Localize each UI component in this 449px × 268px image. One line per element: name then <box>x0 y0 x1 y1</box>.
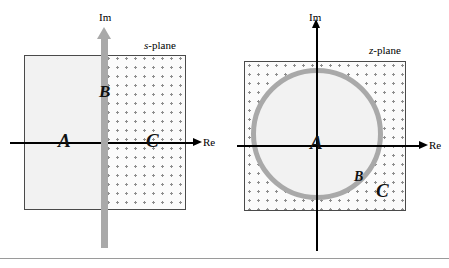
s-plane-panel: Re Im s-plane A B C <box>0 0 225 268</box>
z-plane-panel: Re Im z-plane A B C <box>224 0 449 268</box>
z-plane-im-axis-label: Im <box>309 11 321 23</box>
z-plane-caption: z-plane <box>369 44 401 56</box>
s-plane-unstable-region-dots <box>105 56 185 209</box>
z-plane-re-axis-label: Re <box>429 139 441 151</box>
s-plane-imaginary-axis-bar <box>101 37 108 248</box>
z-plane-re-axis-arrow-icon <box>419 141 428 149</box>
z-plane-region-label-c: C <box>376 180 389 202</box>
figure-bottom-divider <box>0 258 449 259</box>
s-plane-caption-suffix: -plane <box>148 39 175 51</box>
s-plane-region-label-a: A <box>58 130 71 152</box>
z-plane-region-label-b: B <box>354 169 363 185</box>
s-plane-caption: s-plane <box>144 39 176 51</box>
s-plane-region-label-c: C <box>146 130 159 152</box>
z-plane-caption-suffix: -plane <box>373 44 400 56</box>
z-plane-region-label-a: A <box>310 132 323 154</box>
s-plane-region-label-b: B <box>99 82 110 102</box>
s-plane-im-axis-arrow-icon <box>97 27 111 39</box>
z-plane-re-axis-line <box>237 145 422 147</box>
s-plane-re-axis-label: Re <box>203 136 215 148</box>
figure-canvas: Re Im s-plane A B C Re Im z-plane A <box>0 0 449 268</box>
s-plane-im-axis-label: Im <box>99 11 111 23</box>
s-plane-re-axis-arrow-icon <box>193 138 202 146</box>
